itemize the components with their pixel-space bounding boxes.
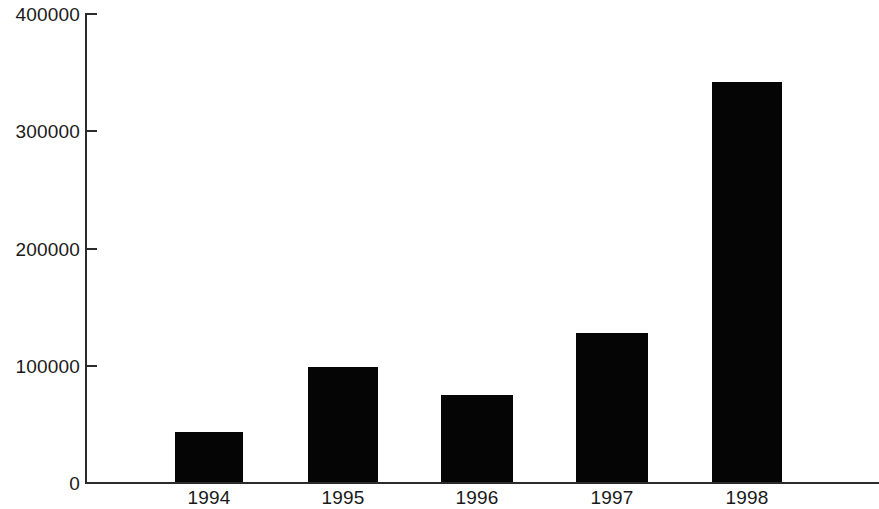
x-axis-label-1994: 1994 [169,488,249,507]
x-axis-line [85,482,879,484]
y-axis-tick-400000 [86,13,97,15]
y-axis-label-400000: 400000 [2,5,80,24]
bar-1997 [576,333,648,482]
y-axis-label-200000: 200000 [2,240,80,259]
x-axis-label-1996: 1996 [437,488,517,507]
bar-chart: 400000 300000 200000 100000 0 1994 1995 … [0,0,879,509]
x-axis-label-1995: 1995 [303,488,383,507]
bar-1996 [441,395,513,482]
x-axis-label-1997: 1997 [572,488,652,507]
y-axis-label-100000: 100000 [2,357,80,376]
bar-1995 [308,367,378,482]
y-axis-label-300000: 300000 [2,122,80,141]
bar-1998 [712,82,782,482]
y-axis-label-0: 0 [2,474,80,493]
x-axis-label-1998: 1998 [707,488,787,507]
y-axis-tick-300000 [86,130,97,132]
y-axis-tick-100000 [86,365,97,367]
bar-1994 [175,432,243,482]
y-axis-tick-200000 [86,248,97,250]
